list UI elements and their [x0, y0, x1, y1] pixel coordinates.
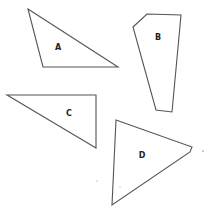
triangle-a: [28, 9, 118, 67]
shape-d: D: [112, 120, 192, 205]
speck-dot: [202, 150, 204, 152]
shape-b: B: [133, 14, 181, 112]
shapes-diagram: A B C D: [0, 0, 213, 216]
speck-dot: [120, 187, 121, 188]
pentagon-b: [133, 14, 181, 112]
shape-a: A: [28, 9, 118, 67]
label-b: B: [155, 33, 161, 42]
shape-c: C: [7, 95, 96, 148]
speck-dot: [96, 180, 97, 181]
label-a: A: [55, 43, 62, 52]
label-d: D: [139, 151, 146, 160]
triangle-d: [112, 120, 192, 205]
label-c: C: [66, 109, 72, 118]
triangle-c: [7, 95, 96, 148]
